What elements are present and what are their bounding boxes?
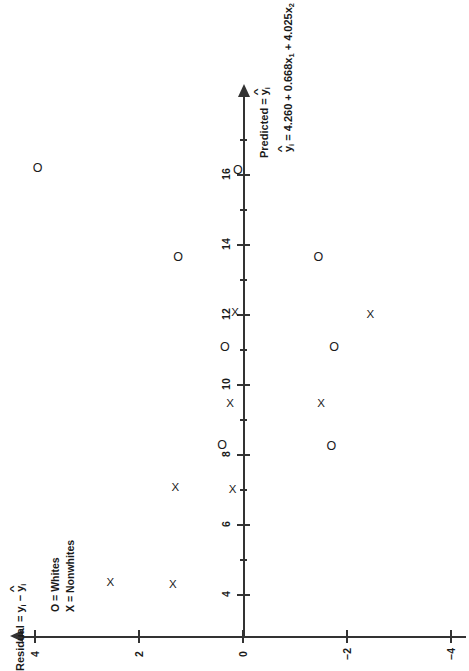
predicted-tick-9 (240, 419, 247, 420)
predicted-axis-line (243, 96, 245, 637)
data-point-whites-5: O (329, 340, 339, 353)
residual-tick-label-4: 4 (29, 645, 41, 663)
data-point-nonwhites-6: X (107, 577, 115, 589)
predicted-tick-8 (237, 454, 250, 455)
data-point-whites-2: O (173, 251, 183, 264)
equation-x2-subscript: 2 (287, 3, 296, 7)
equation-body: = 4.260 + 0.668x (282, 58, 294, 144)
predicted-tick-label-14: 14 (220, 235, 232, 253)
residual-tick--4 (450, 630, 451, 643)
data-point-nonwhites-5: X (229, 484, 237, 496)
residual-scatter-plot: 46810121416420−2−4 OOOOOOOOXXXXXXXX Pred… (0, 0, 469, 671)
predicted-axis-title: Predicted = yi (258, 87, 272, 158)
y-hat-symbol: y (258, 89, 270, 95)
residual-tick-label--4: −4 (445, 645, 457, 663)
legend-separator-0: = (49, 592, 61, 604)
data-point-nonwhites-0: X (231, 308, 239, 320)
residual-y-hat-symbol: y (14, 586, 26, 592)
legend-label-nonwhites: Nonwhites (64, 540, 76, 593)
predicted-tick-11 (240, 349, 247, 350)
residual-y-subscript: i (19, 604, 28, 606)
predicted-tick-label-6: 6 (220, 515, 232, 533)
legend-entry-nonwhites: X = Nonwhites (64, 540, 76, 612)
legend-separator-1: = (64, 593, 76, 605)
residual-tick-0 (242, 630, 243, 643)
predicted-tick-15 (240, 209, 247, 210)
predicted-tick-4 (237, 594, 250, 595)
legend-marker-circle-icon: O (49, 604, 61, 612)
residual-axis-title-prefix: Residual = (14, 613, 26, 671)
residual-y-symbol: y (14, 606, 26, 612)
residual-tick-label-2: 2 (133, 645, 145, 663)
equation-plus-term: + 4.025x (282, 7, 294, 53)
equation-x1-subscript: 1 (287, 53, 296, 57)
predicted-tick-6 (237, 524, 250, 525)
predicted-tick-label-12: 12 (220, 305, 232, 323)
data-point-nonwhites-7: X (169, 579, 177, 591)
predicted-tick-10 (237, 384, 250, 385)
data-point-whites-1: O (233, 164, 243, 177)
residual-tick-2 (138, 630, 139, 643)
predicted-tick-14 (237, 244, 250, 245)
residual-axis-title: Residual = yi − yi (14, 584, 28, 671)
data-point-nonwhites-1: X (367, 309, 375, 321)
residual-tick--2 (346, 630, 347, 643)
data-point-nonwhites-2: X (226, 399, 234, 411)
predicted-axis-title-prefix: Predicted = (258, 95, 270, 158)
residual-tick-label-0: 0 (237, 645, 249, 663)
data-point-whites-4: O (220, 340, 230, 353)
data-point-whites-7: O (327, 440, 337, 453)
legend-entry-whites: O = Whites (49, 557, 61, 612)
residual-tick-4 (34, 630, 35, 643)
legend-marker-cross-icon: X (64, 605, 76, 612)
predicted-tick-13 (240, 279, 247, 280)
predicted-tick-label-4: 4 (220, 585, 232, 603)
residual-tick-label--2: −2 (341, 645, 353, 663)
predicted-tick-label-10: 10 (220, 375, 232, 393)
predicted-tick-5 (240, 559, 247, 560)
predicted-tick-17 (240, 139, 247, 140)
equation-lhs-symbol: y (282, 146, 294, 152)
legend-label-whites: Whites (49, 557, 61, 591)
regression-equation: yi = 4.260 + 0.668x1 + 4.025x2 (282, 3, 296, 152)
data-point-whites-3: O (314, 251, 324, 264)
data-point-nonwhites-3: X (317, 399, 325, 411)
predicted-tick-7 (240, 489, 247, 490)
data-point-whites-6: O (217, 438, 227, 451)
residual-minus: − (14, 592, 26, 605)
data-point-nonwhites-4: X (172, 483, 180, 495)
predicted-tick-label-16: 16 (220, 165, 232, 183)
predicted-axis-arrow-icon (238, 84, 250, 97)
data-point-whites-0: O (33, 162, 43, 175)
